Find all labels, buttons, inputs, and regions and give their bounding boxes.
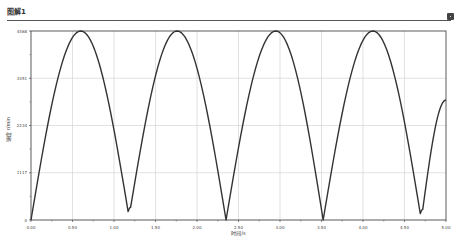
x-tick-label: 2.00 (193, 225, 202, 230)
x-tick-label: 0.00 (27, 225, 36, 230)
x-tick-label: 0.50 (68, 225, 77, 230)
x-tick-label: 3.00 (276, 225, 285, 230)
y-tick-label: 1117 (17, 170, 28, 175)
x-tick-label: 4.00 (359, 225, 368, 230)
x-tick-label: 1.50 (151, 225, 160, 230)
y-tick-label: 0 (24, 218, 27, 223)
y-tick-label: 3351 (17, 76, 28, 81)
x-tick-label: 5.00 (442, 225, 451, 230)
y-tick-label: 2234 (17, 123, 28, 128)
x-axis-title: 时间/s (231, 230, 246, 237)
x-tick-label: 1.00 (110, 225, 119, 230)
line-chart: 0.000.501.001.502.002.503.003.504.004.50… (0, 0, 458, 249)
x-tick-label: 4.50 (400, 225, 409, 230)
y-axis-title: 速度 r/min (5, 117, 12, 142)
x-tick-label: 3.50 (317, 225, 326, 230)
y-tick-label: 4468 (17, 29, 28, 34)
